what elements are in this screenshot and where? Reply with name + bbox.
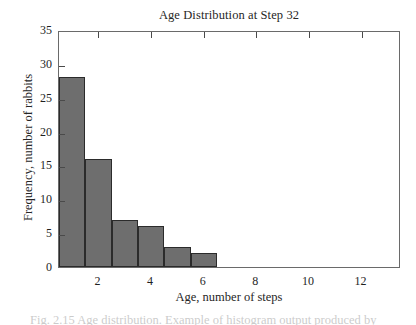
x-axis-label: Age, number of steps — [58, 290, 400, 305]
y-tick-mark — [59, 235, 65, 236]
bar — [59, 77, 85, 267]
x-tick-label: 6 — [183, 274, 223, 289]
x-tick-mark — [362, 32, 363, 38]
bar — [138, 226, 164, 267]
bars-layer — [59, 32, 399, 267]
y-tick-mark — [59, 201, 65, 202]
x-tick-label: 4 — [130, 274, 170, 289]
x-tick-mark — [309, 32, 310, 38]
x-tick-mark — [256, 32, 257, 38]
plot-area — [58, 31, 400, 268]
chart-title: Age Distribution at Step 32 — [58, 8, 400, 23]
y-tick-mark — [59, 100, 65, 101]
bar — [191, 253, 217, 267]
x-tick-mark — [98, 32, 99, 38]
bar — [85, 159, 111, 267]
figure-caption: Fig. 2.15 Age distribution. Example of h… — [30, 313, 410, 325]
x-tick-label: 8 — [235, 274, 275, 289]
x-tick-label: 2 — [77, 274, 117, 289]
bar — [164, 247, 190, 267]
x-tick-mark — [151, 32, 152, 38]
bar — [112, 220, 138, 267]
y-axis-label: Frequency, number of rabbits — [21, 28, 36, 268]
y-tick-mark — [59, 167, 65, 168]
y-tick-mark — [59, 134, 65, 135]
y-tick-mark — [59, 66, 65, 67]
x-tick-label: 12 — [341, 274, 381, 289]
figure-container: Age Distribution at Step 32 051015202530… — [0, 0, 416, 325]
x-tick-label: 10 — [288, 274, 328, 289]
x-tick-mark — [204, 32, 205, 38]
